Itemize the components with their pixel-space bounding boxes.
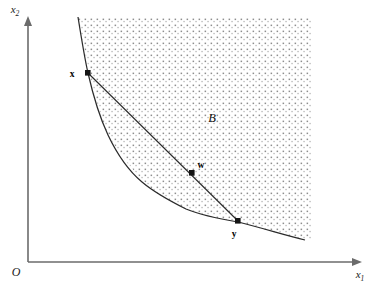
region-b-fill [76,16,314,242]
point-marker-x [85,70,91,76]
origin-label: O [12,265,21,279]
convex-set-figure: x w y B O x1 x2 [0,0,375,290]
point-marker-w [189,170,195,176]
point-x-group: x [70,69,91,79]
point-label-w: w [198,160,205,170]
y-axis-label: x2 [10,3,20,18]
x-axis-arrow-icon [352,258,362,266]
x-axis-label: x1 [355,268,365,283]
point-marker-y [235,218,241,224]
y-axis-arrow-icon [24,16,32,26]
point-label-y: y [232,229,237,239]
x-axis-label-subscript: 1 [361,274,365,283]
region-label-b: B [208,111,216,125]
diagram-canvas: x w y B O x1 x2 [0,0,375,290]
y-axis-label-subscript: 2 [16,9,20,18]
point-label-x: x [70,69,75,79]
shaded-region-b [76,16,314,242]
